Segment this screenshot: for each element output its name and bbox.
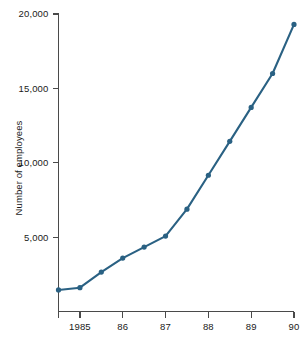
x-tick-label: 86 bbox=[117, 321, 128, 332]
data-point bbox=[163, 233, 168, 238]
data-point bbox=[249, 105, 254, 110]
chart-figure: 5,00010,00015,00020,000 19858687888990 N… bbox=[0, 0, 308, 339]
x-tick-label: 1985 bbox=[69, 321, 91, 332]
data-point bbox=[206, 173, 211, 178]
data-point bbox=[270, 71, 275, 76]
line-chart: 5,00010,00015,00020,000 19858687888990 N… bbox=[0, 0, 308, 339]
series-line bbox=[59, 24, 295, 290]
x-axis-ticks bbox=[59, 312, 295, 318]
y-axis-ticks bbox=[53, 14, 59, 237]
data-series bbox=[56, 22, 297, 293]
y-tick-label: 5,000 bbox=[24, 232, 49, 243]
data-point bbox=[142, 244, 147, 249]
y-tick-label: 20,000 bbox=[19, 8, 49, 19]
data-point bbox=[77, 285, 82, 290]
chart-axes bbox=[59, 14, 295, 312]
x-axis-tick-labels: 19858687888990 bbox=[69, 321, 299, 332]
data-point bbox=[120, 256, 125, 261]
axis-spine bbox=[59, 14, 295, 312]
data-point bbox=[56, 287, 61, 292]
x-tick-label: 90 bbox=[289, 321, 300, 332]
x-tick-label: 89 bbox=[246, 321, 257, 332]
data-point bbox=[99, 269, 104, 274]
data-point bbox=[227, 139, 232, 144]
x-tick-label: 88 bbox=[203, 321, 214, 332]
data-point bbox=[184, 207, 189, 212]
data-point bbox=[291, 22, 296, 27]
x-tick-label: 87 bbox=[160, 321, 171, 332]
y-tick-label: 15,000 bbox=[19, 83, 49, 94]
y-axis-title: Number of employees bbox=[13, 120, 24, 215]
